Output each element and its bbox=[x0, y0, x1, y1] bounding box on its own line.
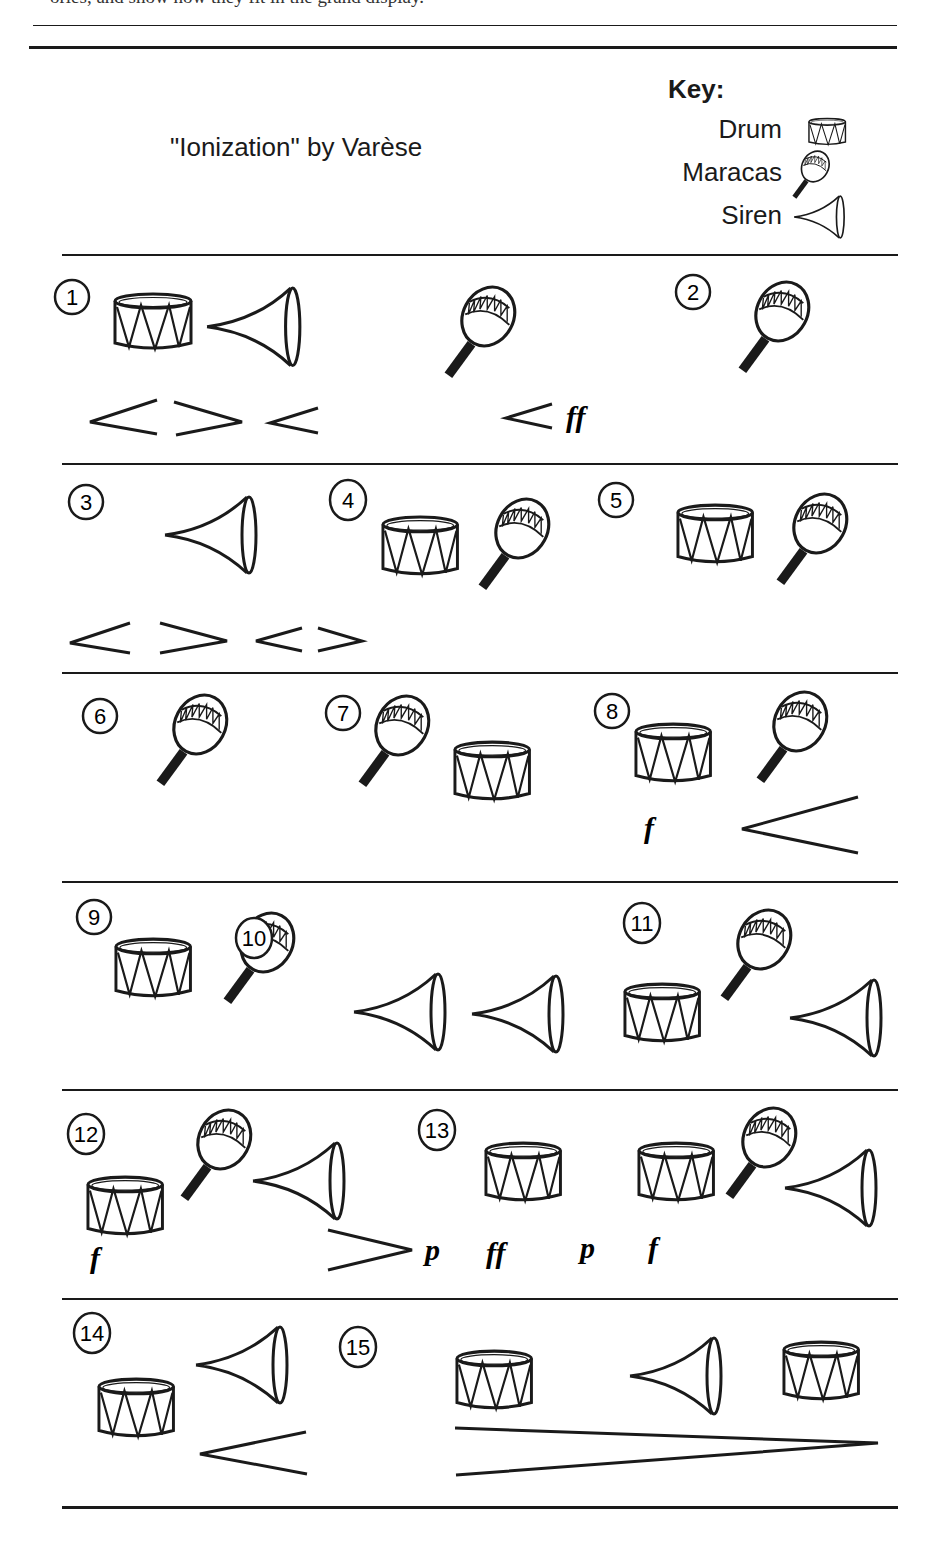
section-5: 5 bbox=[599, 483, 857, 582]
crescendo-icon bbox=[70, 623, 130, 653]
maracas-icon bbox=[482, 490, 558, 588]
decrescendo-icon bbox=[455, 1428, 878, 1475]
section-13: 13 ff p f bbox=[419, 1099, 876, 1269]
drum-icon bbox=[636, 724, 710, 782]
drum-icon bbox=[625, 984, 699, 1042]
drum-icon bbox=[115, 294, 191, 349]
crescendo-icon bbox=[506, 404, 552, 428]
dynamic-f: f bbox=[90, 1241, 103, 1274]
maracas-icon bbox=[724, 901, 800, 999]
siren-icon bbox=[790, 980, 881, 1056]
section-3: 3 bbox=[69, 485, 362, 653]
decrescendo-icon bbox=[318, 628, 362, 651]
maracas-icon bbox=[362, 687, 438, 785]
drum-icon bbox=[639, 1143, 713, 1201]
dynamic-f: f bbox=[648, 1231, 661, 1264]
dynamic-p: p bbox=[577, 1231, 595, 1264]
maracas-icon bbox=[448, 278, 524, 376]
siren-icon bbox=[794, 196, 844, 238]
drum-icon bbox=[457, 1351, 531, 1409]
siren-icon bbox=[785, 1150, 876, 1226]
crescendo-icon bbox=[270, 408, 318, 433]
maracas-icon bbox=[760, 683, 836, 781]
siren-icon bbox=[630, 1338, 721, 1414]
drum-icon bbox=[809, 118, 845, 144]
crescendo-icon bbox=[256, 628, 302, 651]
crescendo-icon bbox=[90, 400, 157, 434]
drum-icon bbox=[486, 1143, 560, 1201]
section-number: 5 bbox=[610, 488, 622, 513]
section-number: 7 bbox=[337, 701, 349, 726]
section-number: 10 bbox=[242, 926, 266, 951]
section-8: 8 f bbox=[595, 683, 858, 853]
crescendo-icon bbox=[742, 797, 858, 853]
maracas-icon bbox=[794, 146, 834, 197]
dynamic-p: p bbox=[422, 1233, 440, 1266]
drum-icon bbox=[88, 1177, 162, 1235]
siren-icon bbox=[196, 1327, 287, 1403]
decrescendo-icon bbox=[160, 623, 227, 653]
section-number: 8 bbox=[606, 699, 618, 724]
section-number: 9 bbox=[88, 905, 100, 930]
decrescendo-icon bbox=[328, 1230, 412, 1270]
section-number: 14 bbox=[80, 1321, 104, 1346]
drum-icon bbox=[678, 505, 752, 563]
decrescendo-icon bbox=[174, 402, 242, 435]
section-14: 14 bbox=[74, 1313, 307, 1474]
maracas-icon bbox=[184, 1101, 260, 1199]
section-4: 4 bbox=[330, 480, 559, 587]
maracas-icon bbox=[729, 1099, 805, 1197]
maracas-icon bbox=[742, 273, 818, 371]
section-12: 12 f p bbox=[68, 1101, 440, 1274]
section-6: 6 bbox=[83, 686, 237, 784]
section-number: 12 bbox=[74, 1122, 98, 1147]
maracas-icon bbox=[160, 686, 236, 784]
maracas-icon bbox=[780, 485, 856, 583]
section-11: 11 bbox=[624, 901, 881, 1056]
section-number: 4 bbox=[342, 488, 354, 513]
section-number: 11 bbox=[631, 911, 654, 936]
section-number: 3 bbox=[80, 490, 92, 515]
siren-icon bbox=[472, 976, 563, 1052]
listening-map: 1 ff 2 3 4 5 6 bbox=[0, 0, 942, 1549]
drum-icon bbox=[99, 1379, 173, 1437]
section-number: 13 bbox=[425, 1118, 449, 1143]
section-number: 15 bbox=[346, 1335, 370, 1360]
section-7: 7 bbox=[326, 687, 529, 800]
dynamic-ff: ff bbox=[566, 400, 588, 433]
section-2: 2 bbox=[676, 273, 819, 371]
drum-icon bbox=[784, 1342, 858, 1400]
siren-icon bbox=[165, 497, 256, 573]
section-1: 1 ff bbox=[55, 278, 588, 435]
section-number: 6 bbox=[94, 704, 106, 729]
section-9: 9 bbox=[77, 900, 304, 1001]
siren-icon bbox=[253, 1143, 344, 1219]
dynamic-f: f bbox=[644, 811, 657, 844]
section-number: 2 bbox=[687, 280, 699, 305]
drum-icon bbox=[455, 742, 529, 800]
drum-icon bbox=[116, 939, 190, 997]
drum-icon bbox=[383, 517, 457, 575]
crescendo-icon bbox=[200, 1432, 307, 1474]
section-15: 15 bbox=[340, 1327, 878, 1475]
siren-icon bbox=[354, 974, 445, 1050]
dynamic-ff: ff bbox=[486, 1236, 508, 1269]
siren-icon bbox=[207, 288, 300, 366]
section-number: 1 bbox=[66, 285, 78, 310]
